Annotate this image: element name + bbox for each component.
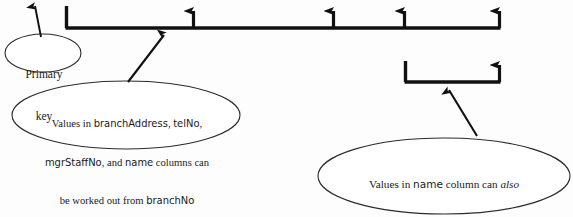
figure-canvas: Primary key Values in branchAddress, tel…: [0, 0, 573, 217]
bubble-one-callout-ellipse: [12, 81, 240, 149]
bubble-two-callout-ellipse: [318, 138, 570, 214]
bubble-two-connector-arrow: [449, 90, 477, 136]
primary-key-callout-ellipse: [5, 34, 81, 72]
dependency-diagram: [0, 0, 573, 217]
transitive-dependency-bar: [405, 61, 501, 82]
bubble-one-connector-arrow: [128, 35, 164, 82]
primary-key-connector-arrow: [35, 6, 41, 37]
primary-key-dependency-bar: [66, 6, 501, 28]
